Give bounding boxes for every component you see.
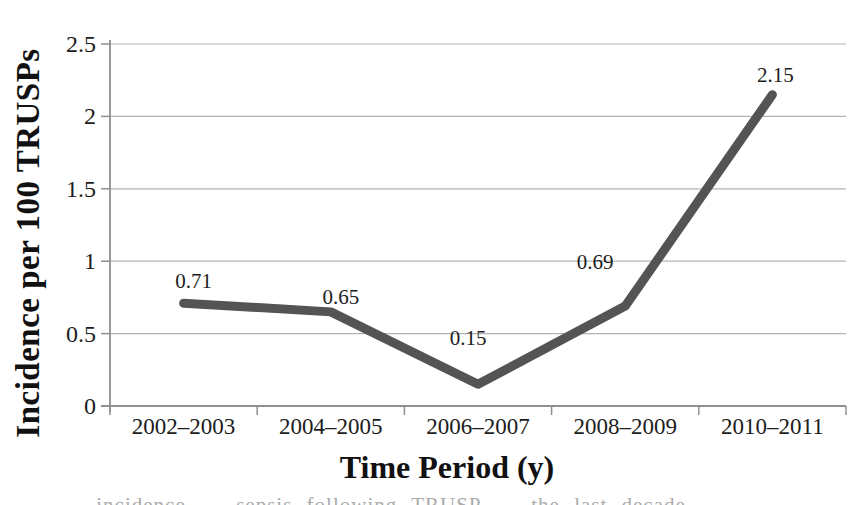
x-tick-label: 2006–2007	[393, 414, 563, 439]
y-tick-label: 1	[0, 248, 96, 274]
x-tick-label: 2004–2005	[246, 414, 416, 439]
x-axis-title: Time Period (y)	[247, 449, 647, 486]
data-point-label: 0.71	[175, 269, 212, 294]
y-tick-label: 2.5	[0, 31, 96, 57]
y-tick-label: 0.5	[0, 321, 96, 347]
data-point-label: 0.15	[450, 326, 487, 351]
y-tick-label: 1.5	[0, 176, 96, 202]
x-tick-label: 2008–2009	[540, 414, 710, 439]
chart-figure: Incidence per 100 TRUSPs 00.511.522.5 20…	[0, 0, 859, 505]
y-tick-label: 2	[0, 103, 96, 129]
y-tick-label: 0	[0, 393, 96, 419]
data-point-label: 0.69	[577, 250, 614, 275]
clipped-caption-text: … incidence … sepsis following TRUSP … t…	[60, 493, 859, 505]
x-tick-label: 2002–2003	[99, 414, 269, 439]
data-point-label: 2.15	[757, 62, 794, 87]
x-tick-label: 2010–2011	[687, 414, 857, 439]
data-point-label: 0.65	[322, 284, 359, 309]
